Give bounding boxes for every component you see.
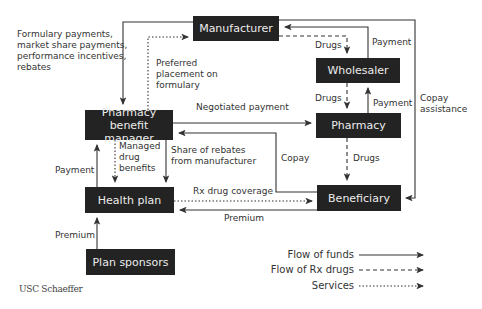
- label-line: assistance: [420, 104, 467, 115]
- label-premium-beneficiary: Premium: [224, 213, 264, 224]
- node-label: Beneficiary: [328, 192, 390, 205]
- label-line: benefits: [119, 163, 160, 174]
- label-line: performance incentives,: [17, 51, 127, 62]
- label-drugs-mfr-wholesaler: Drugs: [315, 40, 342, 51]
- legend-rx-drugs: Flow of Rx drugs: [271, 264, 354, 275]
- node-pharmacy: Pharmacy: [316, 113, 401, 138]
- label-managed-drug-benefits: Managed drug benefits: [119, 141, 160, 174]
- node-label: Pharmacy: [331, 119, 386, 132]
- credit-logo: USC Schaeffer: [19, 284, 83, 294]
- legend-funds: Flow of funds: [287, 249, 354, 260]
- node-manufacturer: Manufacturer: [193, 16, 279, 41]
- label-line: Formulary payments,: [17, 29, 127, 40]
- label-line: drug: [119, 152, 160, 163]
- label-payment-hp-pbm: Payment: [55, 165, 94, 176]
- label-share-of-rebates: Share of rebates from manufacturer: [171, 145, 256, 167]
- label-rx-drug-coverage: Rx drug coverage: [193, 186, 273, 197]
- label-line: rebates: [17, 62, 127, 73]
- label-line: Preferred: [156, 58, 218, 69]
- label-preferred-placement: Preferred placement on formulary: [156, 58, 218, 91]
- node-label: Plan sponsors: [92, 256, 168, 269]
- node-label: Manufacturer: [199, 22, 273, 35]
- label-drugs-wholesaler-pharmacy: Drugs: [315, 93, 342, 104]
- label-copay-assistance: Copay assistance: [420, 93, 467, 115]
- label-premium-sponsors: Premium: [55, 230, 95, 241]
- label-line: Copay: [420, 93, 467, 104]
- legend-services: Services: [312, 280, 354, 291]
- label-drugs-pharmacy-beneficiary: Drugs: [353, 153, 380, 164]
- label-payment-pharmacy-wholesaler: Payment: [373, 98, 412, 109]
- label-formulary-payments: Formulary payments, market share payment…: [17, 29, 127, 73]
- label-line: formulary: [156, 80, 218, 91]
- node-wholesaler: Wholesaler: [316, 58, 400, 83]
- node-label-line1: Pharmacy benefit: [85, 106, 173, 132]
- label-line: from manufacturer: [171, 156, 256, 167]
- node-plan-sponsors: Plan sponsors: [86, 249, 175, 275]
- node-pharmacy-benefit-manager: Pharmacy benefit manager: [85, 110, 173, 140]
- node-health-plan: Health plan: [85, 187, 174, 213]
- label-line: Share of rebates: [171, 145, 256, 156]
- label-line: Managed: [119, 141, 160, 152]
- node-beneficiary: Beneficiary: [317, 185, 401, 211]
- label-payment-wholesaler-mfr: Payment: [372, 37, 411, 48]
- label-line: market share payments,: [17, 40, 127, 51]
- node-label: Wholesaler: [327, 64, 388, 77]
- label-line: placement on: [156, 69, 218, 80]
- label-copay: Copay: [281, 153, 309, 164]
- node-label: Health plan: [98, 194, 161, 207]
- label-negotiated-payment: Negotiated payment: [196, 102, 289, 113]
